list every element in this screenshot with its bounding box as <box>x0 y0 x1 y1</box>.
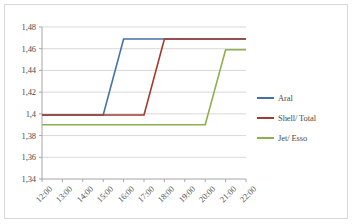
legend-color-swatch <box>257 97 274 100</box>
legend-item: Shell/ Total <box>257 113 316 123</box>
y-axis-tick-label: 1,4 <box>5 109 36 119</box>
legend-color-swatch <box>257 137 274 140</box>
y-axis-tick-label: 1,36 <box>5 152 36 162</box>
y-axis-tick-label: 1,38 <box>5 131 36 141</box>
legend-label: Aral <box>278 93 293 103</box>
y-axis-tick-label: 1,42 <box>5 87 36 97</box>
series-line-aral <box>42 39 246 115</box>
legend-item: Aral <box>257 93 293 103</box>
y-axis-tick-label: 1,48 <box>5 22 36 32</box>
chart-frame: 1,481,461,441,421,41,381,361,34 12:0013:… <box>4 4 348 219</box>
legend-label: Jet/ Esso <box>278 133 307 143</box>
series-line-shell-total <box>42 39 246 115</box>
legend-color-swatch <box>257 117 274 120</box>
y-axis-tick-label: 1,46 <box>5 44 36 54</box>
legend-item: Jet/ Esso <box>257 133 307 143</box>
legend-label: Shell/ Total <box>278 113 316 123</box>
y-axis-tick-label: 1,34 <box>5 174 36 184</box>
y-axis-tick-label: 1,44 <box>5 65 36 75</box>
